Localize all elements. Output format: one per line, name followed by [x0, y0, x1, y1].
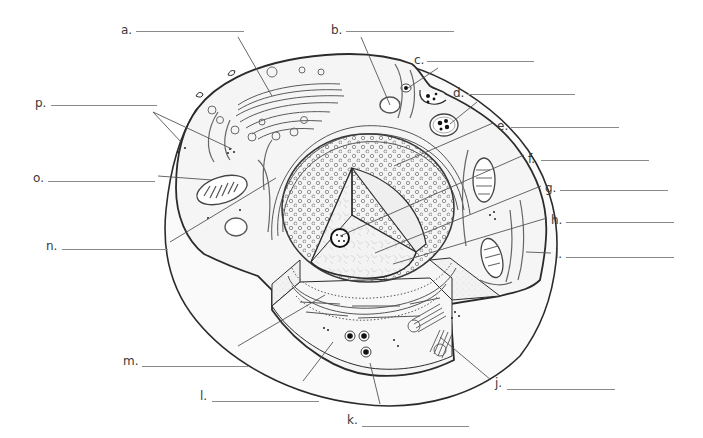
- answer-blank-d[interactable]: [468, 94, 575, 95]
- label-j: j.: [495, 376, 502, 390]
- label-a: a.: [121, 23, 132, 37]
- animal-cell-diagram: [0, 0, 703, 438]
- label-d: d.: [453, 86, 464, 100]
- answer-blank-o[interactable]: [48, 181, 155, 182]
- label-p: p.: [35, 96, 46, 110]
- answer-blank-k[interactable]: [362, 426, 469, 427]
- label-m: m.: [123, 354, 139, 368]
- label-g: g.: [545, 181, 556, 195]
- label-k: k.: [347, 413, 358, 427]
- answer-blank-a[interactable]: [136, 31, 244, 32]
- label-n: n.: [46, 239, 57, 253]
- answer-blank-m[interactable]: [142, 366, 249, 367]
- label-o: o.: [33, 171, 44, 185]
- label-c: c.: [414, 53, 424, 67]
- answer-blank-f[interactable]: [541, 160, 649, 161]
- answer-blank-b[interactable]: [346, 31, 454, 32]
- membrane-notch-1: [196, 92, 203, 97]
- label-l: l.: [200, 389, 207, 403]
- nucleus: [282, 134, 454, 282]
- answer-blank-n[interactable]: [62, 249, 168, 250]
- answer-blank-i[interactable]: [566, 257, 674, 258]
- answer-blank-l[interactable]: [212, 401, 319, 402]
- answer-blank-c[interactable]: [427, 61, 534, 62]
- nucleolus: [331, 229, 349, 247]
- label-i: i.: [555, 247, 562, 261]
- mitochondrion-right-1: [473, 158, 495, 202]
- answer-blank-j[interactable]: [507, 389, 615, 390]
- answer-blank-p[interactable]: [51, 105, 157, 106]
- label-f: f.: [528, 152, 535, 166]
- label-b: b.: [331, 23, 342, 37]
- answer-blank-h[interactable]: [566, 222, 674, 223]
- answer-blank-g[interactable]: [560, 190, 668, 191]
- label-e: e.: [497, 119, 508, 133]
- vacuole: [225, 218, 247, 236]
- label-h: h.: [551, 213, 562, 227]
- membrane-notch-2: [228, 71, 235, 76]
- answer-blank-e[interactable]: [511, 127, 619, 128]
